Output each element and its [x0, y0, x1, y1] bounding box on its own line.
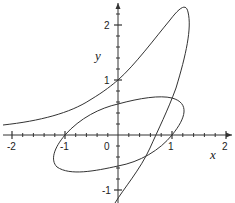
y-tick-label: 2 [104, 20, 110, 31]
origin-label: 0 [104, 141, 110, 152]
ellipse-curve [54, 97, 185, 172]
y-tick-label: -1 [102, 185, 111, 196]
x-tick-label: -1 [60, 141, 69, 152]
y-tick-label: 1 [104, 75, 110, 86]
x-tick-label: -2 [7, 141, 16, 152]
x-axis-arrow-icon [226, 133, 232, 138]
x-tick-label: 1 [168, 141, 174, 152]
y-axis-label: y [93, 48, 101, 63]
x-axis-label: x [209, 147, 216, 162]
y-axis-arrow-icon [116, 3, 121, 9]
open-curve [3, 7, 189, 203]
plot-canvas: -2 -1 0 1 2 2 1 -1 x y [0, 0, 235, 203]
x-tick-label: 2 [222, 141, 228, 152]
